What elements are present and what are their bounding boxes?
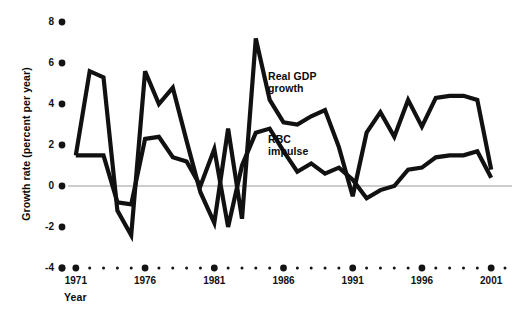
x-tick-dot-major — [72, 265, 79, 272]
x-tick-dot-major — [349, 265, 356, 272]
x-tick-dot-minor — [476, 267, 479, 270]
x-tick-label: 1981 — [192, 275, 236, 286]
series-label-rbc-impulse: RBC impulse — [268, 133, 308, 157]
x-tick-dot-minor — [324, 267, 327, 270]
x-tick-dot-major — [211, 265, 218, 272]
x-tick-label: 1986 — [262, 275, 306, 286]
y-axis-tick-dots — [59, 19, 66, 272]
x-axis-title: Year — [64, 291, 87, 303]
x-tick-dot-minor — [504, 267, 507, 270]
x-tick-dot-minor — [254, 267, 257, 270]
x-tick-dot-major — [142, 265, 149, 272]
x-tick-dot-major — [280, 265, 287, 272]
chart-container: 86420-2-4 1971197619811986199119962001 G… — [0, 0, 525, 330]
x-tick-dot-minor — [310, 267, 313, 270]
y-tick-dot — [59, 101, 66, 108]
x-tick-dot-minor — [88, 267, 91, 270]
series-label-gdp-line1: Real GDP — [268, 70, 317, 82]
y-tick-dot — [59, 183, 66, 190]
series-label-real-gdp-growth: Real GDP growth — [268, 70, 317, 94]
x-tick-dot-minor — [407, 267, 410, 270]
series-label-gdp-line2: growth — [268, 82, 317, 94]
x-tick-label: 2001 — [469, 275, 513, 286]
x-tick-dot-minor — [199, 267, 202, 270]
x-tick-label: 1971 — [54, 275, 98, 286]
y-axis-title: Growth rate (percent per year) — [20, 44, 32, 244]
y-tick-dot — [59, 224, 66, 231]
x-tick-dot-minor — [268, 267, 271, 270]
x-tick-dot-minor — [116, 267, 119, 270]
x-tick-dot-minor — [171, 267, 174, 270]
x-tick-dot-minor — [296, 267, 299, 270]
x-tick-label: 1996 — [400, 275, 444, 286]
x-tick-dot-minor — [185, 267, 188, 270]
x-tick-dot-minor — [462, 267, 465, 270]
x-tick-dot-major — [488, 265, 495, 272]
series-label-rbc-line2: impulse — [268, 145, 308, 157]
x-tick-dot-major — [419, 265, 426, 272]
y-tick-label: -4 — [28, 262, 54, 273]
x-tick-dot-minor — [448, 267, 451, 270]
x-tick-dot-minor — [227, 267, 230, 270]
x-tick-dot-minor — [434, 267, 437, 270]
x-tick-dot-major — [59, 265, 66, 272]
x-tick-dot-minor — [337, 267, 340, 270]
x-tick-dot-minor — [157, 267, 160, 270]
x-tick-label: 1976 — [123, 275, 167, 286]
x-tick-dot-minor — [102, 267, 105, 270]
y-tick-label: 8 — [28, 16, 54, 27]
x-tick-dot-minor — [240, 267, 243, 270]
x-tick-label: 1991 — [331, 275, 375, 286]
x-tick-dot-minor — [365, 267, 368, 270]
x-tick-dot-minor — [379, 267, 382, 270]
x-axis-tick-dots — [59, 265, 507, 272]
x-tick-dot-minor — [130, 267, 133, 270]
y-tick-dot — [59, 60, 66, 67]
x-tick-dot-minor — [393, 267, 396, 270]
y-tick-dot — [59, 19, 66, 26]
y-tick-dot — [59, 142, 66, 149]
series-label-rbc-line1: RBC — [268, 133, 308, 145]
